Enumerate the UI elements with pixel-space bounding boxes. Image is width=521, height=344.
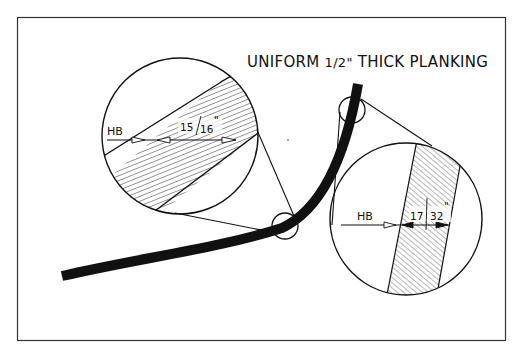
svg-text:17: 17 <box>410 210 423 222</box>
right-hb-label: HB <box>357 210 373 223</box>
left-hb-label: HB <box>107 125 123 138</box>
title-pre: UNIFORM <box>247 53 325 71</box>
svg-text:32: 32 <box>430 210 443 222</box>
right-detail-view: HB 17 32 " <box>330 140 482 300</box>
left-plank-section <box>60 60 262 230</box>
left-detail-view: HB 15 16 " <box>40 58 270 245</box>
title-fraction: 1/2" <box>325 55 353 70</box>
svg-text:15: 15 <box>180 121 193 133</box>
svg-text:": " <box>214 114 219 126</box>
stray-dot <box>287 139 289 141</box>
svg-text:16: 16 <box>200 123 214 135</box>
diagram-title: UNIFORM 1/2" THICK PLANKING <box>247 53 488 71</box>
planking-diagram: UNIFORM 1/2" THICK PLANKING HB <box>0 0 521 344</box>
svg-text:": " <box>444 200 449 212</box>
title-post: THICK PLANKING <box>353 53 489 71</box>
svg-text:UNIFORM 1/2" THICK PLANKING: UNIFORM 1/2" THICK PLANKING <box>247 53 488 71</box>
